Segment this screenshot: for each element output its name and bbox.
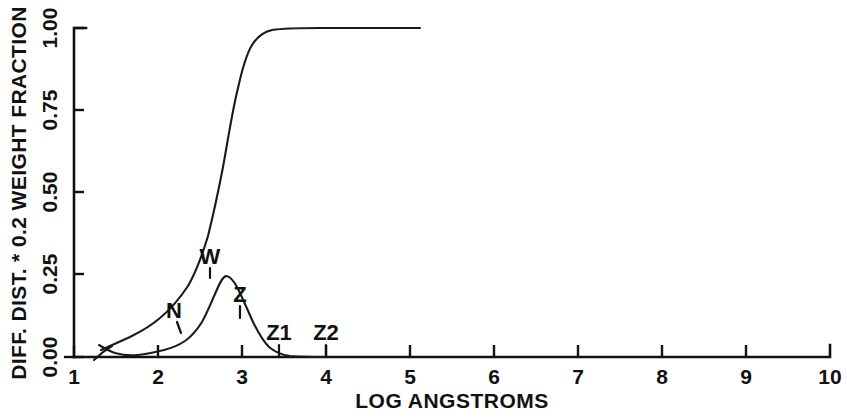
y-tick-label-4: 1.00 — [38, 8, 61, 49]
marker-label-Z: Z — [233, 282, 246, 307]
chart-figure: 0.00 0.25 0.50 0.75 1.00 DIFF. DIST. * 0… — [0, 0, 847, 420]
marker-label-W: W — [200, 244, 221, 269]
y-tick-label-1: 0.25 — [38, 253, 61, 294]
y-axis-title: DIFF. DIST. * 0.2 WEIGHT FRACTION — [7, 6, 30, 380]
x-tick-label-5: 5 — [404, 365, 416, 388]
x-axis-title: LOG ANGSTROMS — [355, 389, 549, 412]
y-tick-label-0: 0.00 — [38, 337, 61, 378]
x-tick-label-10: 10 — [818, 365, 841, 388]
marker-label-Z1: Z1 — [266, 320, 292, 345]
x-tick-label-4: 4 — [320, 365, 332, 388]
x-tick-label-1: 1 — [68, 365, 80, 388]
x-tick-label-9: 9 — [740, 365, 752, 388]
x-tick-label-6: 6 — [488, 365, 500, 388]
marker-label-N: N — [166, 298, 182, 323]
x-tick-label-2: 2 — [152, 365, 164, 388]
distribution-plot: 0.00 0.25 0.50 0.75 1.00 DIFF. DIST. * 0… — [0, 0, 847, 420]
x-tick-label-7: 7 — [572, 365, 584, 388]
x-tick-label-8: 8 — [656, 365, 668, 388]
y-tick-label-2: 0.50 — [38, 172, 61, 213]
marker-label-Z2: Z2 — [313, 320, 339, 345]
y-tick-label-3: 0.75 — [38, 89, 61, 130]
x-tick-label-3: 3 — [236, 365, 248, 388]
